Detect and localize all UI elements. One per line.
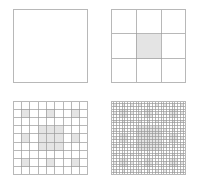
panel-iteration-2 xyxy=(13,101,88,175)
panel-iteration-0 xyxy=(13,9,88,83)
panel-iteration-3 xyxy=(111,101,186,175)
panel-iteration-1 xyxy=(111,9,186,83)
sierpinski-carpet-figure xyxy=(0,0,199,185)
